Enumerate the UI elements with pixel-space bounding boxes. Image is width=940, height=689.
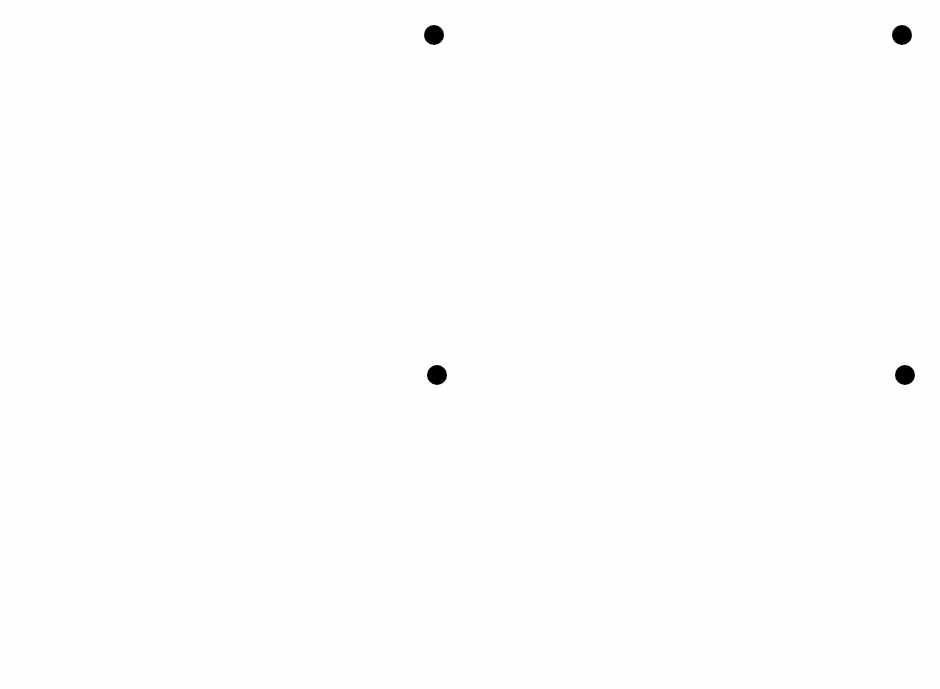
blank-page-canvas [0,0,940,689]
dot-top-left [424,25,444,45]
dot-bottom-right [895,365,915,385]
dot-top-right [892,25,912,45]
dot-bottom-left [427,365,447,385]
